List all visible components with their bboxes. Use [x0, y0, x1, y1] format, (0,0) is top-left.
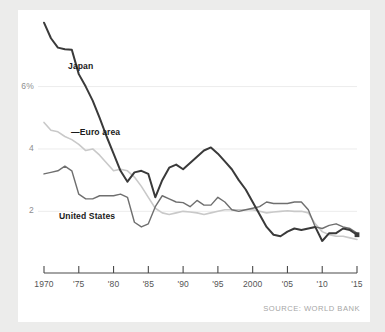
x-tick-label: '15: [340, 279, 374, 289]
x-tick-label: 2000: [236, 279, 270, 289]
x-axis-group: [44, 266, 357, 273]
source-note: SOURCE: WORLD BANK: [263, 304, 360, 313]
x-tick-label: 1970: [27, 279, 61, 289]
united-states-label: United States: [59, 211, 115, 221]
series-end-marker-japan: [355, 232, 360, 237]
series-line-euro-area: [44, 122, 357, 239]
series-line-united-states: [44, 166, 357, 233]
gridlines-group: [38, 87, 357, 212]
line-chart-plot: [18, 10, 370, 322]
y-tick-label: 4: [8, 143, 34, 153]
screenshot-root: 6%42 1970'75'80'85'90'952000'05'10'15 Ja…: [0, 0, 385, 332]
x-tick-label: '85: [131, 279, 165, 289]
japan-label: Japan: [68, 61, 93, 71]
euro-area-label: —Euro area: [71, 127, 120, 137]
y-tick-label: 6%: [8, 81, 34, 91]
x-tick-label: '75: [62, 279, 96, 289]
x-tick-label: '05: [270, 279, 304, 289]
x-tick-label: '80: [97, 279, 131, 289]
x-tick-label: '10: [305, 279, 339, 289]
x-tick-label: '90: [166, 279, 200, 289]
chart-card: 6%42 1970'75'80'85'90'952000'05'10'15 Ja…: [18, 10, 370, 322]
y-tick-label: 2: [8, 205, 34, 215]
x-tick-label: '95: [201, 279, 235, 289]
